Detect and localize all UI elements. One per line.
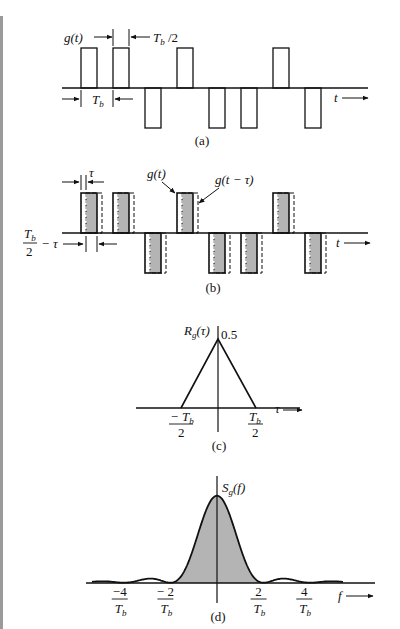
tick-denominator: Tb [254, 601, 266, 618]
panel-a: g(t) Tb /2 Tb t (a) [62, 29, 368, 148]
tau-label: τ [89, 165, 95, 180]
positive-pulse [113, 48, 129, 88]
tick-numerator: −4 [113, 584, 127, 599]
panel-a-axis-label: t [334, 90, 338, 105]
g-shift-label: g(t − τ) [215, 172, 254, 187]
positive-pulse [273, 48, 289, 88]
panel-d: Sg(f) −4Tb− 2Tb2Tb4Tb f (d) [86, 476, 375, 624]
overlap-region [182, 193, 193, 233]
overlap-region [278, 193, 289, 233]
tick-numerator: 2 [255, 584, 262, 599]
panel-b-axis-label: t [336, 235, 340, 250]
panel-a-signal-label: g(t) [64, 30, 83, 45]
tick-numerator: 4 [301, 584, 308, 599]
overlap-region [118, 193, 129, 233]
overlap-region [214, 233, 225, 273]
overlap-region [150, 233, 161, 273]
g-label: g(t) [147, 166, 166, 181]
overlap-region [86, 193, 97, 233]
panel-d-caption: (d) [210, 609, 225, 624]
overlap-region [246, 233, 257, 273]
negative-pulse [145, 88, 161, 128]
peak-value-label: 0.5 [221, 327, 237, 342]
figure: g(t) Tb /2 Tb t (a) τ g(t) g(t − τ) Tb [0, 0, 400, 629]
right-tick-numerator: Tb [249, 409, 261, 426]
left-tick-denominator: 2 [178, 425, 185, 440]
gap-label-suffix: − τ [41, 236, 59, 251]
panel-c: Rg(τ) 0.5 − Tb 2 Tb 2 τ (c) [136, 323, 302, 453]
overlap-region [310, 233, 321, 273]
gap-label-numerator: Tb [24, 226, 36, 243]
panel-d-axis-label: f [338, 588, 344, 603]
width-label: Tb /2 [153, 30, 178, 47]
panel-b: τ g(t) g(t − τ) Tb 2 − τ t (b) [23, 165, 370, 295]
g-shift-pointer [199, 188, 219, 203]
negative-pulse [305, 88, 321, 128]
left-tick-numerator: − Tb [170, 409, 194, 426]
positive-pulse [177, 48, 193, 88]
g-pointer [162, 182, 175, 193]
panel-c-y-label: Rg(τ) [183, 323, 210, 340]
period-label: Tb [92, 92, 104, 109]
panel-c-caption: (c) [212, 438, 226, 453]
negative-pulse [209, 88, 225, 128]
positive-pulse [81, 48, 97, 88]
panel-a-caption: (a) [195, 133, 209, 148]
right-tick-denominator: 2 [252, 425, 259, 440]
tick-denominator: Tb [160, 601, 172, 618]
panel-b-caption: (b) [205, 280, 220, 295]
tick-numerator: − 2 [157, 584, 174, 599]
panel-d-y-label: Sg(f) [222, 480, 245, 497]
tick-denominator: Tb [115, 601, 127, 618]
gap-label-denominator: 2 [26, 244, 33, 259]
negative-pulse [241, 88, 257, 128]
tick-denominator: Tb [299, 601, 311, 618]
